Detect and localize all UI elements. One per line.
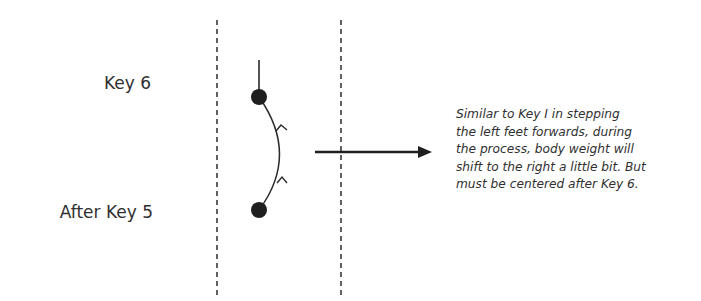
description-line: shift to the right a little bit. But [456, 159, 696, 177]
description-line: must be centered after Key 6. [456, 176, 696, 194]
footstep-dot-key6 [251, 89, 267, 105]
path-arrow-lower-icon [277, 177, 287, 183]
footstep-dot-after-key5 [251, 202, 267, 218]
label-key-6: Key 6 [104, 73, 151, 93]
step-path-curve [259, 97, 280, 210]
description-text: Similar to Key I in stepping the left fe… [456, 106, 696, 194]
label-after-key-5: After Key 5 [60, 202, 153, 222]
path-arrow-upper-icon [276, 125, 287, 131]
description-line: Similar to Key I in stepping [456, 106, 696, 124]
description-line: the process, body weight will [456, 141, 696, 159]
description-line: the left feet forwards, during [456, 124, 696, 142]
pointer-arrow-head-icon [418, 146, 432, 158]
